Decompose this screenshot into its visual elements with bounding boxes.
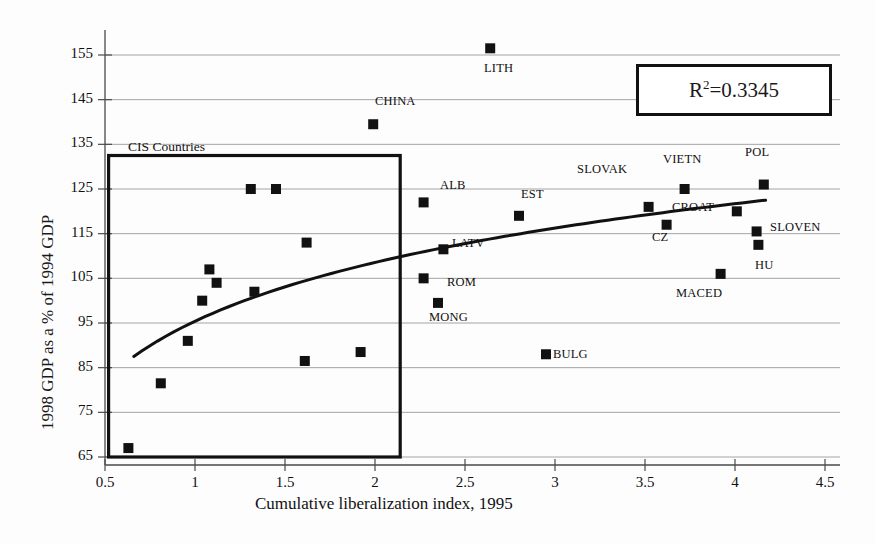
data-point-marker [197,296,207,306]
point-label-pol: POL [745,145,769,160]
data-point-marker [644,202,654,212]
y-tick-label: 65 [53,447,93,464]
data-point-marker [419,273,429,283]
data-point-marker [249,287,259,297]
point-label-china: CHINA [375,94,416,109]
x-tick-label: 2 [350,474,400,491]
cis-countries-label: CIS Countries [128,139,205,155]
data-point-marker [759,180,769,190]
data-point-marker [752,226,762,236]
data-point-marker [753,240,763,250]
point-label-mong: MONG [429,310,468,325]
r-squared-box: R2=0.3345 [636,64,832,116]
x-tick-label: 1 [170,474,220,491]
data-point-marker [123,443,133,453]
data-point-marker [246,184,256,194]
data-point-marker [419,197,429,207]
point-label-cz: CZ [652,230,668,245]
point-label-lith: LITH [484,61,513,76]
data-point-marker [485,43,495,53]
y-tick-label: 75 [53,402,93,419]
y-tick-label: 125 [53,179,93,196]
x-tick-label: 2.5 [440,474,490,491]
y-tick-label: 145 [53,90,93,107]
y-tick-label: 135 [53,134,93,151]
data-point-marker [716,269,726,279]
data-point-marker [732,206,742,216]
point-label-slovak: SLOVAK [577,162,627,177]
x-tick-label: 3 [530,474,580,491]
chart-canvas: 1998 GDP as a % of 1994 GDP Cumulative l… [0,0,875,544]
y-tick-label: 105 [53,268,93,285]
y-tick-label: 85 [53,358,93,375]
point-label-hu: HU [755,258,773,273]
data-point-marker [204,264,214,274]
cis-countries-box [109,156,401,458]
y-tick-label: 115 [53,224,93,241]
data-point-marker [212,278,222,288]
x-tick-label: 1.5 [260,474,310,491]
point-label-alb: ALB [440,178,466,193]
y-tick-label: 155 [53,45,93,62]
x-tick-label: 3.5 [620,474,670,491]
data-point-marker [541,349,551,359]
data-point-marker [680,184,690,194]
data-point-marker [271,184,281,194]
x-axis-title: Cumulative liberalization index, 1995 [255,494,513,514]
x-tick-label: 4 [710,474,760,491]
data-point-marker [438,244,448,254]
r-squared-label: R2=0.3345 [689,77,779,103]
point-label-sloven: SLOVEN [770,220,821,235]
point-label-rom: ROM [447,275,476,290]
point-label-croat: CROAT [672,200,714,215]
data-point-marker [514,211,524,221]
data-point-marker [302,238,312,248]
point-label-est: EST [521,187,544,202]
data-point-marker [183,336,193,346]
data-point-marker [356,347,366,357]
data-point-marker [156,378,166,388]
data-point-marker [662,220,672,230]
data-point-marker [433,298,443,308]
point-label-maced: MACED [676,286,722,301]
point-label-vietn: VIETN [663,152,702,167]
point-label-latv: LATV [452,236,485,251]
x-tick-label: 0.5 [80,474,130,491]
data-point-marker [368,119,378,129]
x-tick-label: 4.5 [800,474,850,491]
point-label-bulg: BULG [553,347,588,362]
y-tick-label: 95 [53,313,93,330]
data-point-marker [300,356,310,366]
